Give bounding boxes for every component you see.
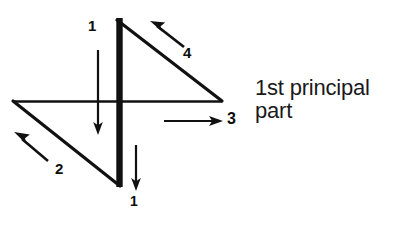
upper-right-hypotenuse	[117, 20, 222, 101]
label-arrow-3: 3	[227, 111, 236, 126]
arrow-4-icon	[150, 21, 184, 47]
arrow-1-top-icon	[93, 50, 103, 135]
pinwheel-diagram: 1 4 3 2 1 1st principal part	[0, 0, 408, 228]
caption-line-2: part	[255, 99, 405, 122]
arrow-1-bottom-icon	[131, 145, 141, 191]
arrow-3-icon	[164, 116, 223, 126]
arrow-2-icon	[14, 132, 48, 161]
label-arrow-2: 2	[55, 161, 63, 176]
label-arrow-4: 4	[183, 45, 191, 60]
caption-line-1: 1st principal	[255, 76, 405, 99]
figure-caption: 1st principal part	[255, 76, 405, 122]
label-arrow-1-bottom: 1	[130, 194, 138, 209]
label-arrow-1-top: 1	[88, 18, 96, 33]
